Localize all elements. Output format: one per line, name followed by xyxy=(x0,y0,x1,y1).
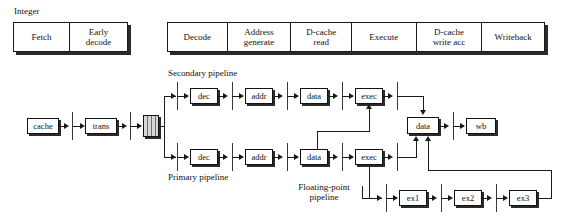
box-fp-ex3: ex3 xyxy=(509,190,537,206)
arrowhead-fp-in-ex2 xyxy=(448,195,453,201)
arrowhead-fp-ex2-out xyxy=(487,195,492,201)
arrowhead-sec-data-out xyxy=(333,93,338,99)
box-secondary-data: data xyxy=(300,88,328,104)
wire-buffer-split-vertical xyxy=(164,96,165,158)
figure-canvas: Integer Fetch Early decode Decode Addres… xyxy=(0,0,565,221)
box-secondary-exec: exec xyxy=(355,88,383,104)
stage-cell-execute: Execute xyxy=(352,23,417,51)
stage-cell-address-generate: Address generate xyxy=(228,23,292,51)
arrowhead-fp-entry xyxy=(377,195,382,201)
box-primary-dec: dec xyxy=(190,149,218,165)
arrowhead-sec-in-data xyxy=(294,93,299,99)
floating-point-pipeline-label: Floating-point pipeline xyxy=(288,182,360,202)
arrowhead-pri-data-out xyxy=(333,154,338,160)
wire-pri-exec-rise xyxy=(416,140,417,157)
arrowhead-pri-exec-into-data xyxy=(413,136,419,141)
box-primary-data: data xyxy=(300,149,328,165)
wire-fp-feedback-into-data xyxy=(428,140,429,170)
arrowhead-wbdata-out xyxy=(444,123,449,129)
arrowhead-sec-in-exec xyxy=(349,93,354,99)
stage-cell-decode: Decode xyxy=(168,23,228,51)
arrowhead-fp-ex1-out xyxy=(432,195,437,201)
arrowhead-to-wb xyxy=(460,123,465,129)
stage-cell-dcache-write-acc: D-cache write acc xyxy=(417,23,483,51)
stage-cell-early-decode: Early decode xyxy=(70,23,127,51)
box-primary-addr: addr xyxy=(245,149,273,165)
arrowhead-crossfeed-into-exec xyxy=(366,104,372,109)
arrowhead-sec-in-dec xyxy=(184,93,189,99)
arrowhead-sec-exec-into-data xyxy=(420,110,426,115)
box-secondary-addr: addr xyxy=(245,88,273,104)
wire-crossfeed-into-secondary-exec xyxy=(369,108,370,131)
wire-sec-exec-to-drop xyxy=(397,96,424,97)
box-trans: trans xyxy=(85,118,117,134)
arrowhead-pri-in-data xyxy=(294,154,299,160)
arrowhead-pri-addr-out xyxy=(278,154,283,160)
arrowhead-cache-out xyxy=(64,123,69,129)
stage-bar-left: Fetch Early decode xyxy=(13,22,128,52)
stage-cell-dcache-read: D-cache read xyxy=(291,23,352,51)
wire-fp-ex3-out xyxy=(537,198,552,199)
arrowhead-trans-out xyxy=(122,123,127,129)
box-cache: cache xyxy=(27,118,59,134)
wire-fp-feedback-run xyxy=(428,170,552,171)
arrowhead-fp-feedback-into-data xyxy=(425,136,431,141)
arrowhead-pri-in-exec xyxy=(349,154,354,160)
stage-cell-writeback: Writeback xyxy=(482,23,544,51)
arrowhead-pri-in-addr xyxy=(239,154,244,160)
arrowhead-pri-in-dec xyxy=(184,154,189,160)
instruction-buffer-icon xyxy=(143,115,159,137)
box-wb: wb xyxy=(466,118,496,134)
arrowhead-sec-dec-out xyxy=(223,93,228,99)
wire-crossfeed-horizontal xyxy=(317,131,370,132)
arrowhead-fp-in-ex1 xyxy=(393,195,398,201)
arrowhead-sec-in-addr xyxy=(239,93,244,99)
wire-crossfeed-from-primary-data xyxy=(317,131,318,149)
arrowhead-fp-in-ex3 xyxy=(503,195,508,201)
arrowhead-pri-exec-out xyxy=(388,154,393,160)
arrowhead-branch-primary xyxy=(171,154,176,160)
stage-bar-right: Decode Address generate D-cache read Exe… xyxy=(167,22,545,52)
wire-pri-exec-to-rise xyxy=(397,157,417,158)
box-fp-ex1: ex1 xyxy=(399,190,427,206)
box-fp-ex2: ex2 xyxy=(454,190,482,206)
wire-fp-feedback-rise xyxy=(551,170,552,198)
secondary-pipeline-label: Secondary pipeline xyxy=(168,68,237,78)
box-primary-exec: exec xyxy=(355,149,383,165)
arrowhead-branch-secondary xyxy=(171,93,176,99)
wire-fp-entry-drop xyxy=(369,165,370,198)
arrowhead-to-buffer xyxy=(137,123,142,129)
box-writeback-data: data xyxy=(407,117,439,134)
primary-pipeline-label: Primary pipeline xyxy=(168,172,228,182)
box-secondary-dec: dec xyxy=(190,88,218,104)
integer-label: Integer xyxy=(14,6,39,16)
stage-cell-fetch: Fetch xyxy=(14,23,70,51)
arrowhead-sec-exec-out xyxy=(388,93,393,99)
wire-fp-entry-corner xyxy=(362,186,363,198)
arrowhead-sec-addr-out xyxy=(278,93,283,99)
arrowhead-pri-dec-out xyxy=(223,154,228,160)
